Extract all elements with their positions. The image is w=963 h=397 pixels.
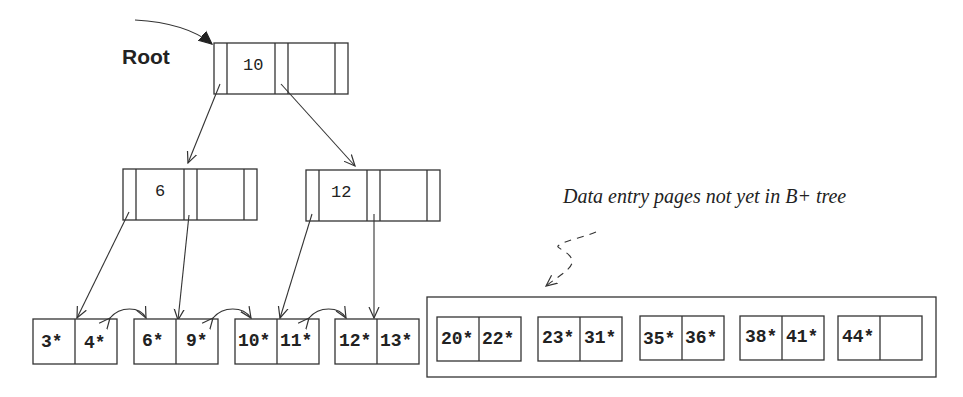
leaf-entry: 10*	[238, 331, 270, 351]
pending-entry: 35*	[643, 329, 675, 349]
sibling-link-3-4	[309, 309, 346, 318]
pending-entry: 31*	[584, 328, 616, 348]
leaf-page-3: 10* 11*	[235, 319, 319, 364]
leaf-entry: 12*	[339, 331, 371, 351]
index-node-6: 6	[123, 169, 257, 220]
pending-pages-caption: Data entry pages not yet in B+ tree	[562, 185, 846, 208]
pending-entry: 36*	[685, 328, 717, 348]
index-key-6: 6	[155, 182, 165, 201]
pending-page-1: 20* 22*	[437, 317, 521, 361]
leaf-entry: 11*	[280, 331, 312, 351]
edge-root-to-node-12	[281, 84, 355, 166]
pending-entry: 23*	[542, 328, 574, 348]
pending-page-2: 23* 31*	[538, 317, 622, 361]
leaf-entry: 3*	[41, 332, 63, 352]
b-plus-tree-diagram: Root 10 6 12 3* 4*	[0, 0, 963, 397]
root-pointer-arrow	[135, 20, 212, 44]
leaf-entry: 4*	[84, 333, 106, 353]
caption-pointer-arrow	[546, 232, 596, 286]
root-key: 10	[243, 56, 263, 75]
edge-node-6-to-leaf-1	[77, 212, 129, 318]
root-label: Root	[122, 45, 170, 68]
index-node-12: 12	[306, 170, 440, 221]
pending-entry: 20*	[441, 329, 473, 349]
leaf-page-1: 3* 4*	[33, 319, 117, 364]
leaf-entry: 9*	[186, 331, 208, 351]
leaf-entry: 13*	[380, 331, 412, 351]
pending-page-5: 44*	[838, 316, 922, 360]
edge-node-6-to-leaf-2	[178, 215, 189, 320]
sibling-link-2-3	[213, 309, 251, 318]
leaf-entry: 6*	[142, 331, 164, 351]
sibling-link-1-2	[110, 309, 146, 318]
index-key-12: 12	[331, 183, 351, 202]
root-node: 10	[214, 43, 348, 94]
edge-node-12-to-leaf-3	[280, 214, 312, 318]
leaf-page-2: 6* 9*	[134, 319, 218, 364]
pending-entry: 41*	[786, 327, 818, 347]
leaf-page-4: 12* 13*	[335, 319, 419, 364]
pending-page-4: 38* 41*	[740, 316, 824, 360]
pending-page-3: 35* 36*	[640, 316, 724, 360]
pending-entry: 44*	[842, 327, 874, 347]
edge-root-to-node-6	[188, 84, 220, 163]
pending-entry: 22*	[482, 329, 514, 349]
pending-entry: 38*	[745, 327, 777, 347]
